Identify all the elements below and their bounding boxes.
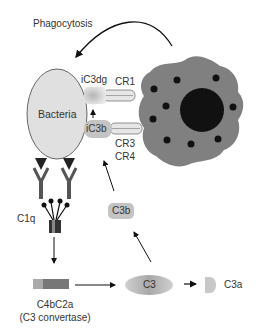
cr1-receptor: [103, 90, 135, 101]
phagocytosis-label: Phagocytosis: [33, 18, 92, 29]
cr1-label: CR1: [115, 76, 135, 87]
cr3-label: CR3: [115, 138, 135, 149]
c3-label: C3: [143, 279, 156, 290]
granule: [215, 136, 222, 143]
granule: [164, 137, 171, 144]
granule: [174, 77, 181, 84]
granule: [188, 141, 195, 148]
c3b-label: C3b: [112, 205, 130, 216]
nucleus: [180, 88, 224, 132]
c3-convertase-label: (C3 convertase): [10, 312, 100, 323]
phagocyte-cell: [139, 56, 244, 166]
granule: [150, 116, 157, 123]
c4bc2a-convertase: [33, 279, 69, 289]
c1q-complex: [42, 199, 70, 234]
cr3-cr4-receptor: [110, 123, 142, 134]
cr4-label: CR4: [115, 151, 135, 162]
c3b-to-ic3b-arrow: [104, 161, 114, 191]
granule: [151, 86, 158, 93]
granule: [230, 104, 237, 111]
ic3dg-fragment: [84, 87, 106, 104]
ic3b-label: iC3b: [86, 123, 107, 134]
antibodies: [34, 158, 76, 199]
c3a-fragment: [205, 277, 216, 293]
c4bc2a-label: C4bC2a: [20, 299, 90, 310]
c1q-label: C1q: [17, 213, 35, 224]
granule: [213, 75, 220, 82]
c3a-label: C3a: [224, 279, 242, 290]
ic3dg-label: iC3dg: [81, 74, 107, 85]
bacteria-label: Bacteria: [38, 108, 77, 120]
c3-to-c3b-arrow: [134, 232, 151, 262]
granule: [163, 103, 170, 110]
